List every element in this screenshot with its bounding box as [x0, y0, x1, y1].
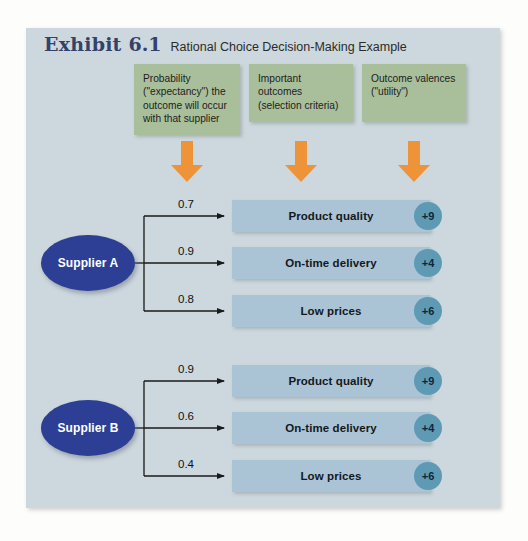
valence-badge: +4 [414, 249, 442, 277]
header-box-probability: Probability ("expectancy") the outcome w… [134, 64, 240, 135]
outcome-bar[interactable]: Low prices [232, 460, 430, 492]
outcome-bar[interactable]: Product quality [232, 200, 430, 232]
outcome-label: On-time delivery [285, 257, 377, 269]
probability-label: 0.6 [178, 410, 194, 422]
exhibit-title-label: Exhibit [44, 33, 122, 55]
valence-badge: +9 [414, 202, 442, 230]
valence-badge: +6 [414, 297, 442, 325]
header-box-probability-text: Probability ("expectancy") the outcome w… [143, 73, 227, 124]
probability-label: 0.8 [178, 293, 194, 305]
probability-label: 0.9 [178, 363, 194, 375]
supplier-node-b[interactable]: Supplier B [41, 400, 135, 456]
down-arrow-icon [170, 141, 204, 183]
supplier-a-label: Supplier A [58, 256, 119, 270]
outcome-bar[interactable]: On-time delivery [232, 247, 430, 279]
valence-value: +9 [422, 375, 435, 387]
outcome-label: Low prices [300, 305, 361, 317]
outcome-bar[interactable]: Product quality [232, 365, 430, 397]
header-box-valences: Outcome valences ("utility") [362, 64, 466, 122]
valence-badge: +4 [414, 414, 442, 442]
outcome-label: Low prices [300, 470, 361, 482]
outcome-label: Product quality [288, 210, 373, 222]
header-box-outcomes-text: Important outcomes (selection criteria) [258, 73, 338, 111]
probability-label: 0.9 [178, 245, 194, 257]
exhibit-figure: Exhibit 6.1 Rational Choice Decision-Mak… [0, 0, 528, 541]
valence-value: +9 [422, 210, 435, 222]
header-box-valences-text: Outcome valences ("utility") [371, 73, 455, 97]
down-arrow-icon [397, 141, 431, 183]
outcome-label: On-time delivery [285, 422, 377, 434]
outcome-bar[interactable]: Low prices [232, 295, 430, 327]
exhibit-subtitle: Rational Choice Decision-Making Example [171, 40, 407, 54]
valence-badge: +6 [414, 462, 442, 490]
down-arrow-icon [284, 141, 318, 183]
valence-value: +4 [422, 257, 435, 269]
probability-label: 0.4 [178, 458, 194, 470]
valence-value: +6 [422, 470, 435, 482]
probability-label: 0.7 [178, 198, 194, 210]
outcome-label: Product quality [288, 375, 373, 387]
supplier-node-a[interactable]: Supplier A [41, 235, 135, 291]
header-box-outcomes: Important outcomes (selection criteria) [249, 64, 353, 122]
exhibit-title: Exhibit 6.1 Rational Choice Decision-Mak… [44, 33, 407, 55]
valence-badge: +9 [414, 367, 442, 395]
valence-value: +4 [422, 422, 435, 434]
valence-value: +6 [422, 305, 435, 317]
supplier-b-label: Supplier B [57, 421, 118, 435]
outcome-bar[interactable]: On-time delivery [232, 412, 430, 444]
exhibit-title-number: 6.1 [129, 33, 162, 55]
